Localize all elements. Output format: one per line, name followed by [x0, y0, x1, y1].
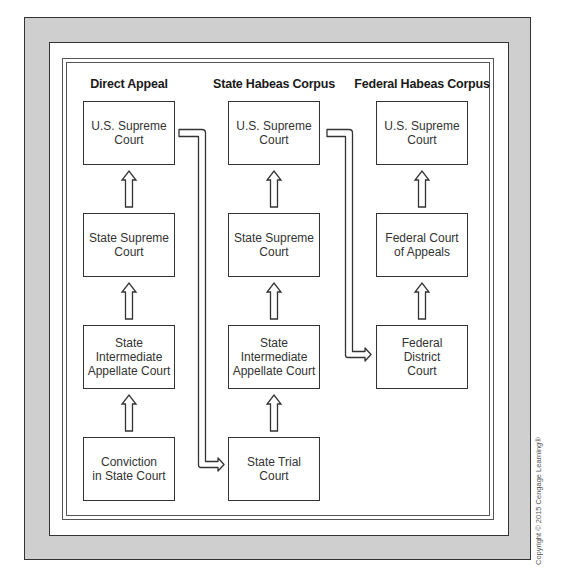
up-arrow-icon — [267, 395, 281, 431]
up-arrow-icon — [415, 283, 429, 319]
up-arrow-icon — [267, 283, 281, 319]
copyright-notice: Copyright © 2015 Cengage Learning® — [534, 437, 543, 565]
up-arrow-icon — [122, 283, 136, 319]
up-arrow-icon — [415, 171, 429, 207]
connector-arrow-icon — [327, 130, 371, 362]
up-arrow-icon — [122, 395, 136, 431]
up-arrow-icon — [122, 171, 136, 207]
connector-arrow-icon — [179, 130, 224, 472]
arrows-layer — [0, 0, 562, 575]
up-arrow-icon — [267, 171, 281, 207]
